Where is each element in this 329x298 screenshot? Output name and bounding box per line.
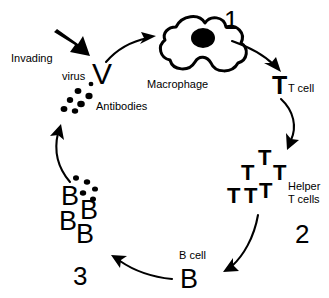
b-cell-clones-cluster: B B B B B (59, 181, 98, 249)
step-3-number: 3 (73, 261, 87, 291)
immune-response-diagram: Invading virus V Antibodies Macroph (0, 0, 329, 298)
antibodies-label: Antibodies (96, 100, 148, 112)
step-1-number: 1 (224, 5, 238, 35)
b-clone-glyph: B (76, 219, 94, 249)
virus-glyph: V (92, 57, 112, 90)
helper-t-cells-label-line2: T cells (288, 193, 320, 205)
t-cell-glyph: T (272, 71, 287, 99)
helper-t-glyph: T (241, 160, 255, 185)
b-cell-label: B cell (179, 249, 206, 261)
helper-t-glyph: T (273, 160, 287, 185)
helper-t-cells-label-line1: Helper (288, 180, 321, 192)
t-cell-label: T cell (288, 82, 314, 94)
antibody-dots-top (61, 82, 94, 114)
helper-t-glyph: T (258, 145, 272, 170)
arrow-helper-tcells-to-bcell (223, 215, 258, 272)
macrophage-label: Macrophage (147, 78, 208, 90)
helper-t-cells-cluster: T T T T T T (227, 145, 287, 208)
arrow-virus-to-macrophage (106, 32, 156, 62)
b-cell-glyph: B (180, 264, 198, 294)
arrow-tcell-to-helper-tcells (281, 99, 299, 150)
arrow-clones-to-antibodies (50, 124, 70, 182)
helper-t-glyph: T (259, 178, 273, 203)
step-2-number: 2 (295, 219, 309, 249)
immune-cycle-canvas: Invading virus V Antibodies Macroph (0, 0, 329, 298)
invading-label: Invading (11, 52, 53, 64)
helper-t-glyph: T (244, 183, 258, 208)
helper-t-glyph: T (227, 183, 241, 208)
invading-virus-arrow (54, 29, 90, 56)
b-clone-glyph: B (59, 206, 77, 236)
virus-label: virus (62, 70, 86, 82)
arrow-bcell-to-clones (111, 255, 172, 279)
